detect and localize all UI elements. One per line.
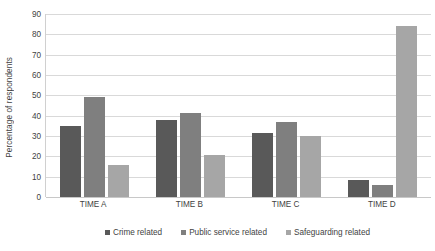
y-tick-label: 50 (32, 91, 41, 100)
x-axis-tick-labels: TIME ATIME BTIME CTIME D (45, 200, 430, 214)
bar-group (239, 14, 335, 197)
x-tick-label: TIME A (45, 200, 141, 214)
y-tick-label: 90 (32, 10, 41, 19)
bar (156, 120, 177, 197)
bar (252, 133, 273, 197)
plot-area (45, 14, 431, 197)
y-tick-label: 70 (32, 50, 41, 59)
bar-group (46, 14, 142, 197)
y-tick-label: 10 (32, 172, 41, 181)
y-axis-title: Percentage of respondents (0, 0, 18, 215)
bar (180, 113, 201, 197)
legend-item[interactable]: Safeguarding related (286, 228, 370, 237)
bar (108, 165, 129, 197)
bar (84, 97, 105, 197)
y-tick-label: 60 (32, 71, 41, 80)
y-tick-label: 0 (36, 193, 41, 202)
legend-item[interactable]: Public service related (181, 228, 267, 237)
legend-item[interactable]: Crime related (105, 228, 162, 237)
bar (204, 155, 225, 197)
gridline (46, 197, 431, 198)
x-tick-label: TIME C (238, 200, 334, 214)
legend-label: Public service related (189, 228, 267, 237)
bar (348, 180, 369, 197)
y-tick-label: 20 (32, 152, 41, 161)
bar (396, 26, 417, 197)
y-tick-label: 30 (32, 132, 41, 141)
x-tick-label: TIME D (334, 200, 430, 214)
y-axis-tick-labels: 0102030405060708090 (18, 0, 44, 215)
bar-group (142, 14, 238, 197)
y-tick-label: 40 (32, 111, 41, 120)
legend-label: Crime related (113, 228, 162, 237)
bar (300, 136, 321, 197)
bar-groups (46, 14, 431, 197)
chart-legend: Crime relatedPublic service relatedSafeg… (45, 226, 430, 238)
y-tick-label: 80 (32, 30, 41, 39)
y-axis-title-label: Percentage of respondents (5, 57, 14, 158)
bar (60, 126, 81, 197)
bar (372, 185, 393, 197)
bar-group (335, 14, 431, 197)
legend-swatch-icon (286, 230, 291, 235)
legend-label: Safeguarding related (294, 228, 370, 237)
bar (276, 122, 297, 197)
legend-swatch-icon (105, 230, 110, 235)
bar-chart: Percentage of respondents 01020304050607… (0, 0, 435, 251)
x-tick-label: TIME B (141, 200, 237, 214)
legend-swatch-icon (181, 230, 186, 235)
